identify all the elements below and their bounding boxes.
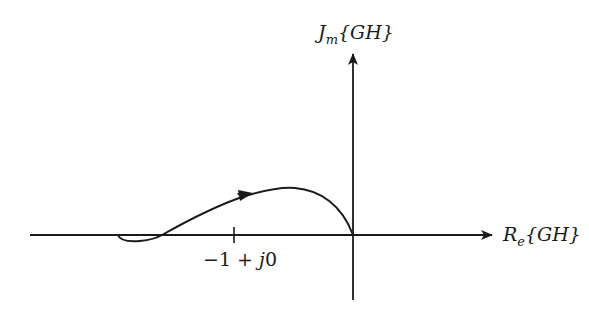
critical-point-plus: + bbox=[231, 248, 259, 270]
plot-area bbox=[0, 0, 589, 315]
real-axis-label-sub: e bbox=[517, 234, 525, 249]
critical-point-real: −1 bbox=[203, 248, 231, 270]
nyquist-curve bbox=[118, 188, 353, 242]
direction-arrow-icon bbox=[237, 190, 253, 201]
imaginary-axis-label-arg: {GH} bbox=[338, 21, 394, 43]
real-axis-label: Re{GH} bbox=[503, 225, 581, 248]
real-axis-label-arg: {GH} bbox=[525, 223, 581, 245]
imaginary-axis-label-main: J bbox=[318, 21, 326, 43]
critical-point-label: −1 + j0 bbox=[203, 250, 277, 269]
imaginary-axis-label: Jm{GH} bbox=[318, 23, 394, 46]
real-axis-label-main: R bbox=[503, 223, 517, 245]
critical-point-imag: 0 bbox=[265, 248, 277, 270]
nyquist-diagram: Jm{GH} Re{GH} −1 + j0 bbox=[0, 0, 589, 315]
imaginary-axis-label-sub: m bbox=[326, 32, 338, 47]
